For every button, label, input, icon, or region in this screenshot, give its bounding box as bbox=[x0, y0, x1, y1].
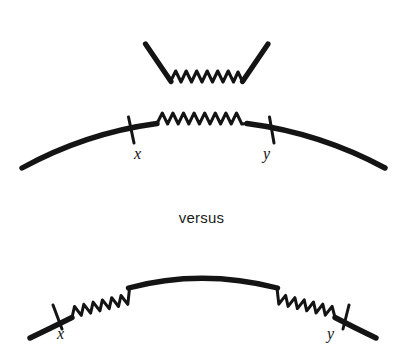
versus-label: versus bbox=[0, 208, 403, 228]
middle-label-y: y bbox=[263, 146, 270, 162]
bottom-label-x: x bbox=[57, 326, 64, 342]
middle-label-x: x bbox=[134, 146, 141, 162]
background bbox=[0, 0, 403, 362]
bottom-label-y: y bbox=[327, 326, 334, 342]
diagram-canvas bbox=[0, 0, 403, 362]
